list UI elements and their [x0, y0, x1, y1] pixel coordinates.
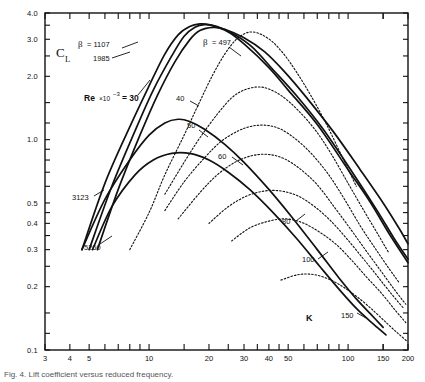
y-tick-label: 2.0 — [27, 72, 38, 81]
svg-text:= 30: = 30 — [122, 93, 139, 103]
x-tick-label: 5 — [87, 354, 91, 363]
curve-60 — [178, 154, 406, 304]
y-axis-title-subscript: L — [65, 54, 70, 64]
x-tick-label: 30 — [240, 354, 248, 363]
figure-caption: Fig. 4. Lift coefficient versus reduced … — [4, 370, 422, 382]
y-tick-label: 3.0 — [27, 35, 38, 44]
curve-30 — [130, 32, 357, 250]
figure-container: 4.03.02.01.00.50.40.30.20.1 345102030405… — [0, 0, 425, 382]
annotation-re-40: 40 — [176, 94, 184, 103]
annotation-re-60: 60 — [218, 152, 226, 161]
annotation-re-label: Re ×10 −3 = 30 — [84, 91, 139, 103]
y-tick-label: 0.3 — [27, 245, 38, 254]
x-tick-label: 200 — [402, 354, 415, 363]
annotation-re-100: 100 — [302, 255, 315, 264]
y-tick-label: 0.1 — [27, 346, 38, 355]
chart-canvas: 4.03.02.01.00.50.40.30.20.1 345102030405… — [0, 0, 425, 382]
svg-text:−3: −3 — [113, 91, 121, 97]
leader-line — [296, 214, 305, 221]
x-tick-label: 150 — [377, 354, 390, 363]
svg-text:= 497: = 497 — [212, 38, 231, 47]
annotation-1985: 1985 — [93, 54, 110, 63]
x-tick-label: 10 — [145, 354, 153, 363]
annotation-re-50: 50 — [187, 121, 195, 130]
x-axis-tick-labels: 3451020304050100150200 — [43, 354, 414, 363]
leader-line — [112, 52, 130, 58]
curve--497 — [97, 27, 408, 249]
x-tick-label: 4 — [68, 354, 72, 363]
curve-100 — [232, 219, 406, 323]
x-tick-label: 40 — [265, 354, 273, 363]
svg-text:×10: ×10 — [99, 95, 110, 102]
annotation-re-80: 80 — [282, 217, 290, 226]
x-axis-title: K — [306, 313, 313, 323]
x-tick-label: 3 — [43, 354, 47, 363]
leader-line — [232, 157, 243, 165]
x-tick-label: 100 — [342, 354, 355, 363]
x-tick-label: 50 — [284, 354, 292, 363]
curve-40 — [165, 87, 389, 253]
annotation-beta-1107: β = 1107 — [78, 39, 110, 49]
annotation-5260: 5260 — [84, 243, 101, 252]
leader-line — [190, 101, 199, 106]
y-axis-tick-labels: 4.03.02.01.00.50.40.30.20.1 — [27, 9, 38, 355]
svg-text:= 1107: = 1107 — [87, 40, 110, 49]
y-tick-label: 0.2 — [27, 282, 38, 291]
leader-line — [122, 42, 138, 48]
curve-5260 — [93, 153, 386, 335]
y-tick-label: 0.5 — [27, 199, 38, 208]
svg-text:β: β — [203, 37, 208, 47]
curve--1107 — [82, 24, 408, 263]
y-tick-label: 0.4 — [27, 219, 38, 228]
annotation-beta-497: β = 497 — [203, 37, 231, 47]
svg-text:Re: Re — [84, 93, 95, 103]
leader-line — [94, 190, 104, 196]
svg-text:β: β — [78, 39, 83, 49]
y-tick-label: 4.0 — [27, 9, 38, 18]
label-leader-lines — [94, 42, 366, 318]
y-tick-label: 1.0 — [27, 135, 38, 144]
y-axis-title: C — [56, 45, 65, 60]
annotation-3123: 3123 — [72, 193, 89, 202]
annotation-re-150: 150 — [341, 311, 354, 320]
x-tick-label: 20 — [205, 354, 213, 363]
leader-line — [229, 47, 241, 56]
data-curves — [82, 24, 408, 342]
